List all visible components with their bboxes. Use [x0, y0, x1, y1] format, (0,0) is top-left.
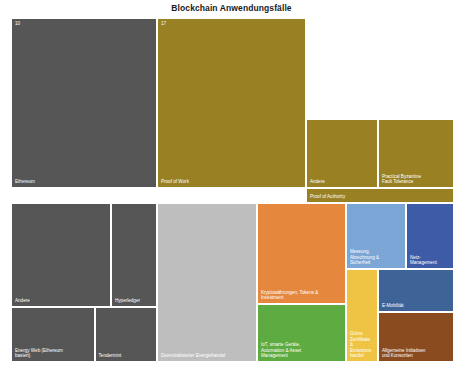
tile-label: Tendermint: [99, 353, 154, 359]
tile-texture: [158, 204, 256, 361]
tile-label: Practical Byzantine Fault Tolerance: [382, 174, 451, 185]
treemap-tile[interactable]: Allgemeine Initiativen und Konsortien: [378, 312, 454, 362]
treemap-tile[interactable]: Kryptowährungen, Tokens & Investment: [257, 203, 346, 304]
tile-value: 10: [15, 21, 20, 26]
treemap-tile[interactable]: IoT, smarte Geräte, Automation & Asset M…: [257, 304, 346, 362]
treemap-chart: Blockchain Anwendungsfälle 10Ethereum17P…: [0, 0, 463, 372]
tile-texture: [12, 204, 110, 306]
treemap-tile[interactable]: Grüne Zertifikate & Emissions- handel: [346, 269, 378, 362]
tile-texture: [158, 19, 305, 187]
tile-label: Ethereum: [15, 179, 154, 185]
tile-texture: [12, 19, 156, 187]
treemap-tile[interactable]: 10Ethereum: [11, 18, 157, 188]
tile-texture: [307, 120, 377, 187]
treemap-plot-area: 10Ethereum17Proof of WorkAnderePractical…: [11, 18, 454, 362]
treemap-tile[interactable]: Messung, Abrechnung & Sicherheit: [346, 203, 406, 269]
treemap-tile[interactable]: Netz- Management: [406, 203, 454, 269]
treemap-tile[interactable]: Andere: [306, 119, 378, 188]
tile-label: Dezentralisierter Energiehandel: [161, 353, 254, 359]
tile-label: Energy Web (Ethereum basiert): [15, 348, 92, 359]
tile-label: Andere: [15, 298, 108, 304]
tile-label: Kryptowährungen, Tokens & Investment: [261, 290, 343, 301]
tile-label: Proof of Work: [161, 179, 303, 185]
tile-label: Allgemeine Initiativen und Konsortien: [382, 348, 451, 359]
tile-label: Hyperledger: [115, 298, 154, 304]
tile-label: Proof of Authority: [310, 194, 451, 200]
treemap-tile[interactable]: E-Mobilität: [378, 269, 454, 312]
tile-label: Grüne Zertifikate & Emissions- handel: [350, 331, 375, 359]
tile-label: Andere: [310, 179, 375, 185]
treemap-tile[interactable]: Andere: [11, 203, 111, 307]
tile-label: Messung, Abrechnung & Sicherheit: [350, 249, 403, 266]
tile-label: IoT, smarte Geräte, Automation & Asset M…: [261, 342, 343, 359]
tile-texture: [112, 204, 156, 306]
treemap-tile[interactable]: 17Proof of Work: [157, 18, 306, 188]
tile-label: E-Mobilität: [382, 303, 451, 309]
treemap-tile[interactable]: Tendermint: [95, 307, 157, 362]
page-title: Blockchain Anwendungsfälle: [0, 3, 463, 13]
treemap-tile[interactable]: Energy Web (Ethereum basiert): [11, 307, 95, 362]
treemap-tile[interactable]: Practical Byzantine Fault Tolerance: [378, 119, 454, 188]
treemap-tile[interactable]: Hyperledger: [111, 203, 157, 307]
tile-texture: [258, 204, 345, 303]
tile-value: 17: [161, 21, 166, 26]
treemap-tile[interactable]: Dezentralisierter Energiehandel: [157, 203, 257, 362]
treemap-tile[interactable]: Proof of Authority: [306, 188, 454, 203]
tile-label: Netz- Management: [410, 255, 451, 266]
